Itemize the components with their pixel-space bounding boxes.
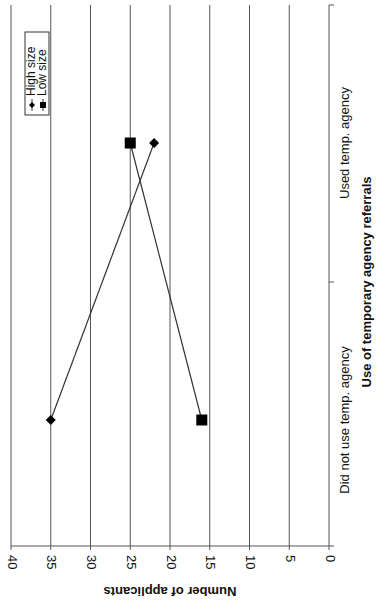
legend-label: Low size <box>35 49 49 96</box>
value-axis-tick-label: 20 <box>164 555 179 569</box>
legend-square-icon <box>40 102 46 108</box>
value-axis-tick-label: 0 <box>323 555 338 562</box>
value-axis-tick-label: 25 <box>124 555 139 569</box>
value-axis-tick-label: 5 <box>283 555 298 562</box>
category-axis-title: Use of temporary agency referrals <box>359 177 374 388</box>
square-marker <box>196 415 207 426</box>
value-axis-tick-label: 35 <box>44 555 59 569</box>
chart-container: 0510152025303540Number of applicantsDid … <box>0 0 389 612</box>
category-tick-label: Used temp. agency <box>337 87 352 200</box>
series-line-low-size <box>130 143 202 420</box>
category-tick-label: Did not use temp. agency <box>337 346 352 494</box>
value-axis-tick-label: 15 <box>203 555 218 569</box>
square-marker <box>125 138 136 149</box>
diamond-marker <box>46 415 56 425</box>
rotated-line-chart: 0510152025303540Number of applicantsDid … <box>0 0 389 612</box>
value-axis-title: Number of applicants <box>104 584 237 599</box>
value-axis-tick-label: 40 <box>5 555 20 569</box>
series-line-high-size <box>51 143 154 420</box>
value-axis-tick-label: 10 <box>243 555 258 569</box>
value-axis-tick-label: 30 <box>84 555 99 569</box>
diamond-marker <box>149 138 159 148</box>
